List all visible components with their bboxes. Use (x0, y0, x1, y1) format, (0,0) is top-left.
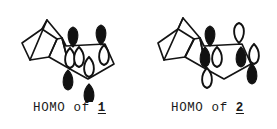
orbital-lobes-1 (63, 25, 109, 102)
caption-1-number: 1 (98, 101, 106, 115)
cage-bond (22, 29, 57, 60)
lobe-bottom-filled (84, 84, 94, 102)
homo-panel-2: HOMO of 2 (138, 0, 277, 129)
lobe-mid-left2-open (74, 47, 84, 67)
homo-comparison-figure: HOMO of 1 (0, 0, 277, 129)
caption-2: HOMO of 2 (138, 101, 277, 116)
orbital-lobes-2 (200, 23, 259, 88)
caption-1-text: HOMO of (33, 101, 98, 115)
lobe-top-right-filled (96, 25, 106, 45)
lobe-top-left-filled (205, 26, 215, 46)
lobe-top-right-open (234, 23, 244, 43)
lobe-lower-right-filled (247, 64, 257, 84)
caption-2-number: 2 (236, 101, 244, 115)
lobe-lower-left-filled (63, 70, 73, 90)
molecule-diagram-2 (138, 2, 277, 102)
lobe-center-open (84, 57, 94, 77)
lobe-mid-left2-open (212, 47, 222, 67)
cage-bond (30, 20, 47, 60)
molecule-diagram-1 (0, 2, 139, 102)
caption-1: HOMO of 1 (0, 101, 139, 116)
caption-2-text: HOMO of (171, 101, 236, 115)
lobe-far-right-open (249, 44, 259, 64)
homo-panel-1: HOMO of 1 (0, 0, 139, 129)
cage-bond (164, 18, 183, 60)
lobe-mid-right-open (99, 45, 109, 65)
lobe-top-left-filled (68, 27, 78, 47)
lobe-lower-left-open (202, 68, 212, 88)
